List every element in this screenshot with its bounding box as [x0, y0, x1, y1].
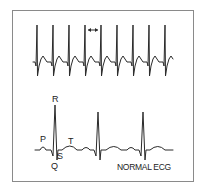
r-wave-label: R	[52, 95, 59, 104]
top-rhythm-strip	[33, 25, 173, 76]
figure-caption: NORMAL ECG	[117, 163, 171, 172]
q-wave-label: Q	[51, 162, 58, 171]
t-wave-label: T	[68, 137, 74, 146]
s-wave-label: S	[57, 152, 63, 161]
ecg-diagram	[0, 0, 203, 189]
p-wave-label: P	[40, 135, 46, 144]
interval-arrow-icon	[88, 28, 98, 32]
bottom-normal-ecg-strip	[35, 105, 173, 160]
